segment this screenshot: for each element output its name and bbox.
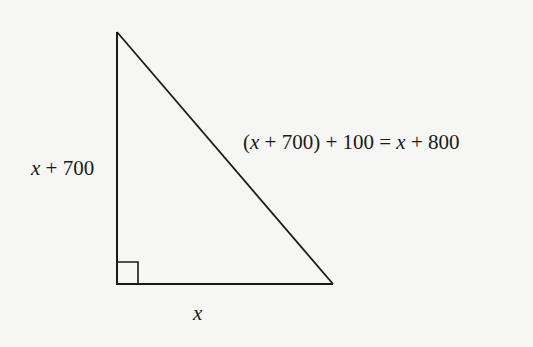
right-angle-marker (117, 262, 138, 284)
left-leg-label: x + 700 (31, 158, 94, 179)
hypotenuse-label: (x + 700) + 100 = x + 800 (243, 132, 460, 153)
hypotenuse-label-open-paren: ( (243, 130, 250, 154)
base-label-variable: x (193, 301, 202, 325)
hypotenuse-label-variable-2: x (396, 130, 405, 154)
base-label: x (193, 303, 202, 324)
hypotenuse (117, 32, 333, 284)
left-leg-label-variable: x (31, 156, 40, 180)
hypotenuse-label-result: + 800 (406, 130, 460, 154)
hypotenuse-label-variable-1: x (250, 130, 259, 154)
left-leg-label-expression: + 700 (40, 156, 94, 180)
hypotenuse-label-middle: + 700) + 100 = (259, 130, 396, 154)
